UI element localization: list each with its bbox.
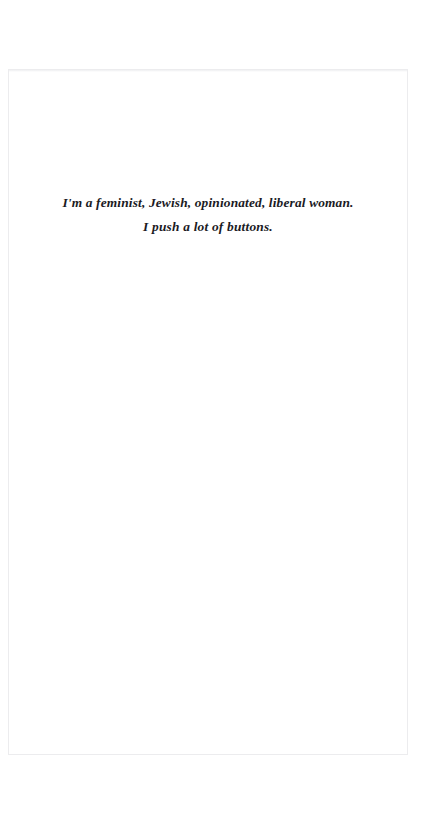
book-page-sheet: I'm a feminist, Jewish, opinionated, lib… (8, 69, 408, 755)
epigraph-line-2: I push a lot of buttons. (27, 215, 389, 239)
scan-canvas: I'm a feminist, Jewish, opinionated, lib… (0, 0, 423, 829)
epigraph-line-1: I'm a feminist, Jewish, opinionated, lib… (27, 191, 389, 215)
epigraph-block: I'm a feminist, Jewish, opinionated, lib… (9, 191, 407, 239)
